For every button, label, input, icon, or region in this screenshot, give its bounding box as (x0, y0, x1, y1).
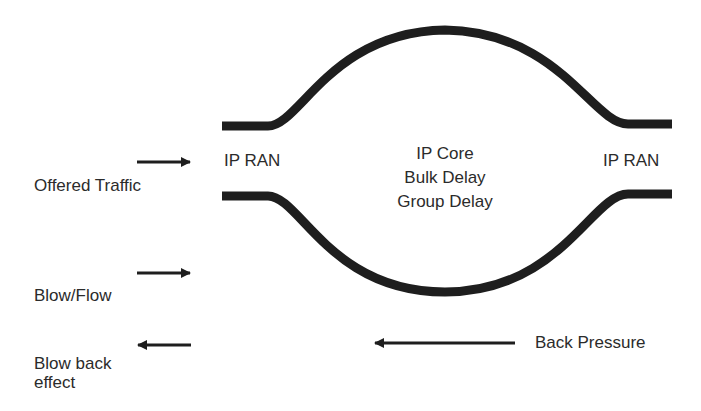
ip-ran-right-label: IP RAN (603, 151, 659, 171)
upper-pipe-wall (222, 30, 672, 126)
blow-flow-label: Blow/Flow (34, 286, 111, 306)
ip-core-label: IP Core (360, 142, 530, 166)
bulk-delay-label: Bulk Delay (360, 166, 530, 190)
group-delay-label: Group Delay (360, 190, 530, 214)
blow-back-label-line1: Blow back (34, 354, 111, 374)
ip-core-label-group: IP Core Bulk Delay Group Delay (360, 142, 530, 214)
back-pressure-label: Back Pressure (535, 333, 646, 353)
ip-ran-left-label: IP RAN (224, 151, 280, 171)
blow-back-label-line2: effect (34, 373, 75, 393)
offered-traffic-label: Offered Traffic (34, 176, 141, 196)
